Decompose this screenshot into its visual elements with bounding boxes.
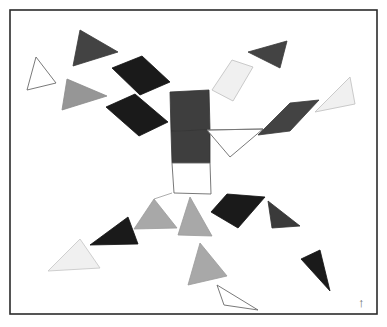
geometric-composition — [0, 0, 387, 327]
square-dark-center-upper — [170, 90, 210, 131]
square-dark-center-lower — [171, 130, 210, 163]
figure-canvas: ↑ — [0, 0, 387, 327]
north-arrow: ↑ — [358, 296, 365, 309]
square-white-center-bottom — [172, 163, 211, 194]
